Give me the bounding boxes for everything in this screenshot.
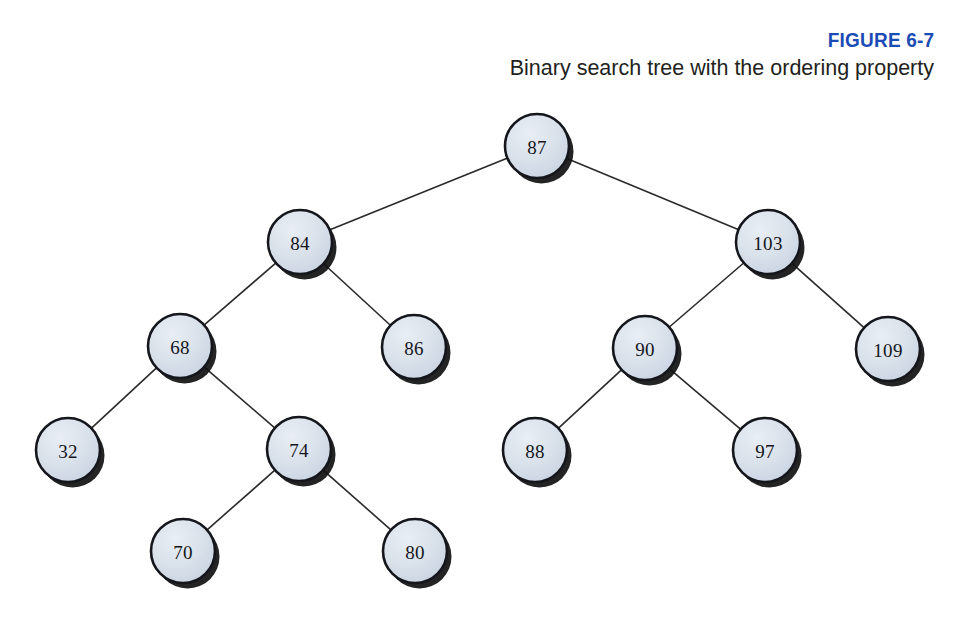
tree-edge: [203, 366, 275, 428]
binary-search-tree-diagram: 8784103688690109327488977080: [0, 0, 956, 628]
tree-edge: [323, 263, 391, 326]
tree-node[interactable]: 87: [505, 114, 574, 184]
tree-node-value: 90: [635, 339, 655, 360]
tree-node-value: 70: [173, 542, 193, 563]
tree-node[interactable]: 103: [736, 210, 805, 280]
tree-node-value: 84: [290, 233, 310, 254]
tree-node[interactable]: 97: [733, 418, 802, 488]
tree-node-value: 86: [404, 338, 424, 359]
tree-edge: [669, 368, 742, 430]
tree-node-value: 68: [170, 337, 190, 358]
tree-node-value: 87: [527, 137, 547, 158]
tree-edge: [203, 262, 276, 325]
tree-node[interactable]: 86: [382, 315, 451, 385]
tree-node-value: 74: [289, 440, 309, 461]
tree-node[interactable]: 32: [36, 418, 105, 488]
tree-edge: [668, 262, 744, 328]
tree-node[interactable]: 68: [148, 314, 217, 384]
tree-edge: [206, 469, 275, 530]
tree-node-value: 32: [58, 441, 78, 462]
tree-node-value: 80: [405, 542, 425, 563]
tree-node-value: 109: [873, 340, 902, 361]
tree-node-layer: 8784103688690109327488977080: [36, 114, 925, 589]
tree-node[interactable]: 109: [856, 317, 925, 387]
tree-edge: [329, 158, 509, 231]
tree-node[interactable]: 88: [503, 418, 572, 488]
figure-container: FIGURE 6-7 Binary search tree with the o…: [0, 0, 956, 628]
tree-edge: [322, 469, 391, 530]
tree-node-value: 88: [525, 441, 545, 462]
tree-node[interactable]: 80: [383, 519, 452, 589]
tree-edge: [791, 263, 865, 329]
tree-edge: [566, 158, 740, 230]
tree-node[interactable]: 70: [151, 519, 220, 589]
tree-node-value: 97: [755, 441, 775, 462]
tree-node[interactable]: 74: [267, 417, 336, 487]
tree-edge: [91, 367, 158, 429]
tree-node[interactable]: 84: [268, 210, 337, 280]
tree-edge: [558, 369, 623, 429]
tree-node-value: 103: [753, 233, 782, 254]
